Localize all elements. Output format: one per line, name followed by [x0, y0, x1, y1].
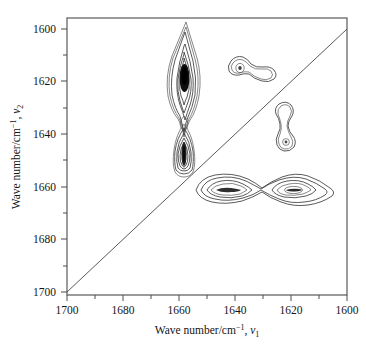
x-axis-tick-labels: 1700 1680 1660 1640 1620 1600 — [56, 304, 359, 316]
x-axis-ticks — [67, 295, 347, 301]
y-tick-label: 1640 — [33, 128, 56, 140]
x-axis-title-sub: 1 — [255, 330, 259, 339]
y-axis-tick-labels: 1600 1620 1640 1660 1680 1700 — [33, 23, 56, 298]
x-tick-label: 1620 — [280, 304, 303, 316]
autopeak-lower-core-center — [183, 145, 185, 163]
x-tick-label: 1640 — [224, 304, 247, 316]
contour-plot: 1700 1680 1660 1640 1620 1600 1600 1620 … — [0, 0, 366, 346]
y-axis-title: Wave number/cm−1, ν2 — [9, 105, 25, 210]
y-axis-title-prefix: Wave number/cm — [10, 128, 22, 209]
autopeak-upper-core-center — [182, 67, 188, 85]
plot-area-background — [67, 18, 347, 295]
y-axis-title-sub: 2 — [16, 105, 25, 109]
y-axis-title-sup: −1 — [9, 120, 18, 129]
crosspeak-upper-core — [238, 66, 241, 70]
x-axis-title-sup: −1 — [236, 323, 245, 332]
y-axis-ticks — [61, 29, 67, 292]
x-axis-title: Wave number/cm−1, ν1 — [155, 323, 260, 339]
y-tick-label: 1680 — [33, 233, 56, 245]
x-tick-label: 1680 — [112, 304, 135, 316]
y-axis-title-group: Wave number/cm−1, ν2 — [9, 105, 25, 210]
y-tick-label: 1700 — [33, 286, 56, 298]
y-tick-label: 1600 — [33, 23, 56, 35]
y-tick-label: 1660 — [33, 181, 56, 193]
x-tick-label: 1600 — [336, 304, 359, 316]
crosspeak-peanut-core — [285, 141, 288, 144]
figure-container: 1700 1680 1660 1640 1620 1600 1600 1620 … — [0, 0, 366, 346]
x-axis-title-prefix: Wave number/cm — [155, 324, 236, 336]
y-tick-label: 1620 — [33, 75, 56, 87]
x-tick-label: 1700 — [56, 304, 79, 316]
x-tick-label: 1660 — [168, 304, 191, 316]
